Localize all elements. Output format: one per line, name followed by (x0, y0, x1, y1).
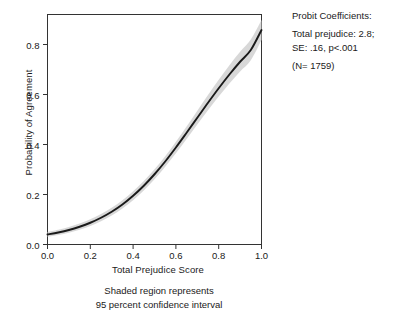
x-tick-label: 0.8 (212, 250, 225, 261)
plot-frame (48, 15, 262, 245)
x-tick-label: 1.0 (255, 250, 268, 261)
x-tick-label: 0.2 (84, 250, 97, 261)
x-axis-title: Total Prejudice Score (40, 264, 276, 275)
statistics-annotation: Probit Coefficients: Total prejudice: 2.… (292, 8, 410, 73)
x-tick-label: 0.0 (41, 250, 54, 261)
x-tick-label: 0.6 (169, 250, 182, 261)
annotation-coefficient: Total prejudice: 2.8; (292, 27, 410, 41)
probit-curve-plot (0, 0, 280, 278)
annotation-heading: Probit Coefficients: (292, 8, 410, 24)
y-tick-label: 0.0 (14, 239, 40, 250)
caption-line-1: Shaded region represents (28, 284, 290, 298)
annotation-standard-error: SE: .16, p<.001 (292, 41, 410, 55)
figure-caption: Shaded region represents 95 percent conf… (28, 284, 290, 312)
y-axis-ticks (43, 45, 48, 245)
annotation-sample-size: (N= 1759) (292, 58, 410, 74)
x-axis-ticks (48, 245, 262, 250)
plot-area: 0.00.20.40.60.81.0 0.00.20.40.60.8 Total… (0, 0, 280, 278)
x-tick-label: 0.4 (126, 250, 139, 261)
y-axis-title: Probability of Agreement (23, 48, 34, 198)
caption-line-2: 95 percent confidence interval (28, 298, 290, 312)
figure-container: 0.00.20.40.60.81.0 0.00.20.40.60.8 Total… (0, 0, 412, 322)
